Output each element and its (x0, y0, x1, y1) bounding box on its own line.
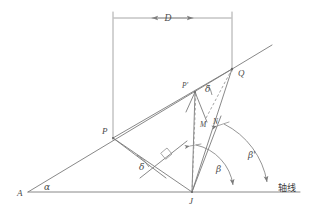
label-point-P-prime: P' (181, 81, 189, 90)
label-angle-alpha: α (44, 182, 50, 192)
label-angle-beta-prime: β' (247, 150, 256, 160)
label-point-J: J (189, 196, 194, 206)
point-dot-P-prime (194, 91, 196, 93)
label-point-N: N (212, 117, 219, 126)
geometry-figure: D A P P' Q M N J α δ δ β β' 轴线 (0, 0, 328, 217)
angle-arc-beta (196, 145, 233, 185)
label-point-Q: Q (238, 68, 245, 78)
diagram-canvas: D A P P' Q M N J α δ δ β β' 轴线 (0, 0, 328, 217)
point-dot-Q (231, 68, 233, 70)
segment-P-foot (113, 138, 166, 178)
dashed-vertical-from-J (192, 90, 196, 192)
label-angle-delta-upper: δ (205, 84, 210, 94)
label-angle-delta-lower: δ (139, 162, 144, 172)
segment-P-prime-M (195, 92, 207, 122)
label-point-P: P (101, 126, 108, 136)
label-point-M: M (199, 120, 207, 129)
angle-arc-beta-prime (224, 124, 267, 182)
segment-J-N (192, 116, 221, 192)
segment-J-Q (192, 69, 232, 192)
label-angle-beta: β (215, 164, 221, 174)
label-point-A: A (16, 188, 23, 198)
label-axis-line: 轴线 (278, 182, 296, 193)
label-dimension-D: D (164, 13, 172, 23)
point-dot-J (191, 191, 193, 193)
point-dot-P (112, 137, 114, 139)
